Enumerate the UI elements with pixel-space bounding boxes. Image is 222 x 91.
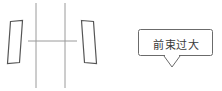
callout-tail-mask — [165, 54, 179, 56]
right-wheel — [82, 21, 97, 64]
left-wheel — [8, 21, 23, 64]
diagram-canvas: 前束过大 — [0, 0, 222, 91]
callout-tail-icon — [164, 56, 180, 67]
callout-label: 前束过大 — [140, 38, 212, 54]
